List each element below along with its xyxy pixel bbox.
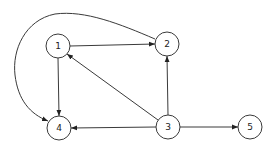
- node-3: 3: [156, 115, 180, 139]
- node-3-label: 3: [165, 122, 171, 132]
- node-4-label: 4: [56, 123, 62, 133]
- edge-1-to-2: [70, 44, 155, 46]
- node-5-label: 5: [247, 122, 253, 132]
- node-4: 4: [47, 116, 71, 140]
- node-1: 1: [46, 34, 70, 58]
- directed-graph: 1 2 3 4 5: [0, 0, 278, 147]
- node-5: 5: [238, 115, 262, 139]
- edge-3-to-4: [71, 127, 156, 128]
- node-2: 2: [155, 32, 179, 56]
- node-2-label: 2: [164, 39, 170, 49]
- node-1-label: 1: [55, 41, 61, 51]
- edge-3-to-2: [167, 56, 168, 115]
- edge-3-to-1: [67, 54, 158, 120]
- edge-1-to-4: [58, 58, 59, 116]
